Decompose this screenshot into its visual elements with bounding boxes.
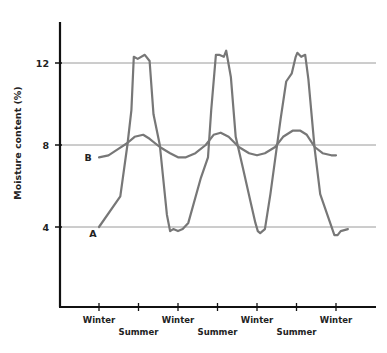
series-line-a xyxy=(99,51,348,236)
x-tick-label-summer: Summer xyxy=(277,327,318,337)
gridlines xyxy=(60,63,376,227)
y-ticks: 4812 xyxy=(36,58,62,233)
axes xyxy=(59,22,376,307)
series-label-b: B xyxy=(84,152,91,163)
x-tick-label-summer: Summer xyxy=(119,327,160,337)
moisture-chart: 4812 WinterSummerWinterSummerWinterSumme… xyxy=(0,0,387,353)
y-tick-label: 12 xyxy=(36,58,49,69)
x-tick-label-winter: Winter xyxy=(241,315,274,325)
y-tick-label: 4 xyxy=(42,222,49,233)
x-tick-label-winter: Winter xyxy=(162,315,195,325)
series-labels: AB xyxy=(84,152,97,239)
x-tick-label-winter: Winter xyxy=(83,315,116,325)
series-label-a: A xyxy=(89,228,97,239)
x-tick-label-winter: Winter xyxy=(320,315,353,325)
y-axis-label: Moisture content (%) xyxy=(12,86,23,199)
y-tick-label: 8 xyxy=(42,140,49,151)
series-lines xyxy=(99,51,348,236)
x-tick-label-summer: Summer xyxy=(198,327,239,337)
series-line-b xyxy=(99,131,336,158)
